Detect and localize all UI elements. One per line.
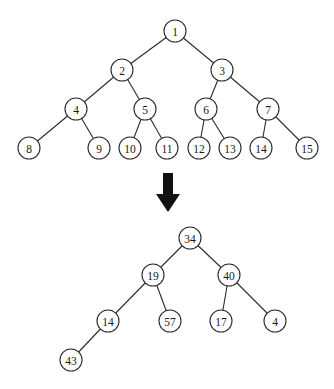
top-node-12: 12 xyxy=(188,137,210,159)
node-label: 4 xyxy=(272,316,278,328)
bottom-node-43: 43 xyxy=(60,349,82,371)
bottom-node-4: 4 xyxy=(264,310,286,332)
node-label: 11 xyxy=(161,143,172,155)
bottom-node-14: 14 xyxy=(97,310,119,332)
top-node-1: 1 xyxy=(164,20,186,42)
node-label: 2 xyxy=(119,65,125,77)
node-label: 15 xyxy=(301,143,313,155)
tree-diagram-canvas: 123456789101112131415 341940145717443 xyxy=(0,0,334,389)
node-label: 14 xyxy=(255,143,267,155)
top-node-3: 3 xyxy=(211,59,233,81)
down-arrow-icon xyxy=(156,173,180,212)
node-label: 7 xyxy=(265,104,271,116)
top-node-6: 6 xyxy=(195,98,217,120)
top-node-14: 14 xyxy=(250,137,272,159)
top-node-8: 8 xyxy=(18,137,40,159)
top-node-4: 4 xyxy=(65,98,87,120)
top-node-7: 7 xyxy=(257,98,279,120)
node-label: 14 xyxy=(102,316,114,328)
bottom-node-57: 57 xyxy=(159,310,181,332)
node-label: 19 xyxy=(147,270,159,282)
node-label: 10 xyxy=(124,143,136,155)
node-label: 1 xyxy=(172,26,178,38)
top-node-9: 9 xyxy=(88,137,110,159)
top-node-11: 11 xyxy=(156,137,178,159)
bottom-node-40: 40 xyxy=(218,264,240,286)
top-node-13: 13 xyxy=(219,137,241,159)
node-label: 9 xyxy=(96,143,102,155)
bottom-node-17: 17 xyxy=(210,310,232,332)
node-label: 43 xyxy=(65,355,77,367)
top-node-5: 5 xyxy=(134,98,156,120)
bottom-tree-nodes: 341940145717443 xyxy=(60,227,286,371)
node-label: 5 xyxy=(142,104,148,116)
node-label: 8 xyxy=(26,143,32,155)
node-label: 12 xyxy=(193,143,205,155)
top-node-10: 10 xyxy=(119,137,141,159)
bottom-node-19: 19 xyxy=(142,264,164,286)
node-label: 3 xyxy=(219,65,225,77)
node-label: 17 xyxy=(215,316,227,328)
node-label: 34 xyxy=(184,233,196,245)
bottom-tree-edges xyxy=(71,238,275,360)
node-label: 40 xyxy=(223,270,235,282)
node-label: 6 xyxy=(203,104,209,116)
top-node-15: 15 xyxy=(296,137,318,159)
top-tree-edges xyxy=(29,31,307,148)
bottom-node-34: 34 xyxy=(179,227,201,249)
top-node-2: 2 xyxy=(111,59,133,81)
node-label: 4 xyxy=(73,104,79,116)
top-tree-nodes: 123456789101112131415 xyxy=(18,20,318,159)
node-label: 13 xyxy=(224,143,236,155)
node-label: 57 xyxy=(164,316,176,328)
